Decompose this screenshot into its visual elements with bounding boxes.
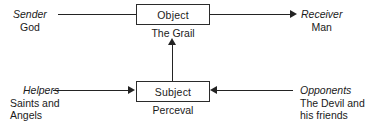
actant-opponents: Opponents The Devil and his friends bbox=[300, 84, 365, 122]
actant-helpers-role: Helpers bbox=[23, 84, 60, 97]
node-subject: Subject bbox=[136, 81, 210, 102]
actant-helpers: Helpers Saints and Angels bbox=[10, 84, 60, 122]
arrowhead-right-icon bbox=[128, 86, 135, 94]
node-subject-caption: Perceval bbox=[136, 104, 210, 116]
actant-sender-role: Sender bbox=[13, 8, 47, 21]
edge-subject-to-object bbox=[172, 44, 173, 81]
node-object-label: Object bbox=[157, 9, 189, 21]
actant-receiver-value: Man bbox=[301, 21, 342, 34]
node-subject-label: Subject bbox=[155, 86, 191, 98]
edge-opponents-to-subject bbox=[217, 90, 293, 91]
actant-helpers-value-line1: Saints and bbox=[10, 97, 60, 110]
actant-sender: Sender God bbox=[13, 8, 47, 33]
actant-helpers-value-line2: Angels bbox=[10, 109, 60, 122]
edge-helpers-to-subject bbox=[53, 90, 129, 91]
arrowhead-right-icon bbox=[290, 10, 297, 18]
actant-opponents-role: Opponents bbox=[300, 84, 365, 97]
edge-sender-to-object bbox=[58, 14, 136, 15]
edge-object-to-receiver bbox=[210, 14, 291, 15]
actant-opponents-value-line1: The Devil and bbox=[300, 97, 365, 110]
actantial-model-diagram: Object The Grail Subject Perceval Sender… bbox=[0, 0, 368, 130]
node-object: Object bbox=[136, 4, 210, 25]
actant-sender-value: God bbox=[13, 21, 47, 34]
actant-receiver: Receiver Man bbox=[301, 8, 342, 33]
actant-opponents-value-line2: his friends bbox=[300, 109, 365, 122]
actant-receiver-role: Receiver bbox=[301, 8, 342, 21]
arrowhead-left-icon bbox=[210, 86, 217, 94]
node-object-caption: The Grail bbox=[136, 27, 210, 39]
arrowhead-up-icon bbox=[168, 38, 176, 45]
